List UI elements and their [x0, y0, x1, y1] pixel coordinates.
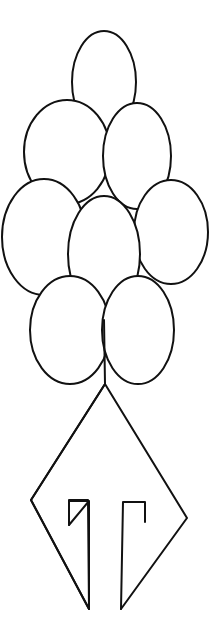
kite-base — [31, 384, 105, 609]
line-drawing: Balloon bouquet line drawing — [0, 0, 216, 629]
balloon-strings-join — [104, 320, 105, 384]
balloon-middle-right — [134, 180, 208, 284]
kite-outline — [31, 384, 187, 609]
left-bracket — [69, 500, 89, 609]
balloon-bouquet-illustration — [0, 0, 216, 629]
balloon-lower-left — [30, 276, 110, 384]
balloon-lower-right — [102, 276, 174, 384]
